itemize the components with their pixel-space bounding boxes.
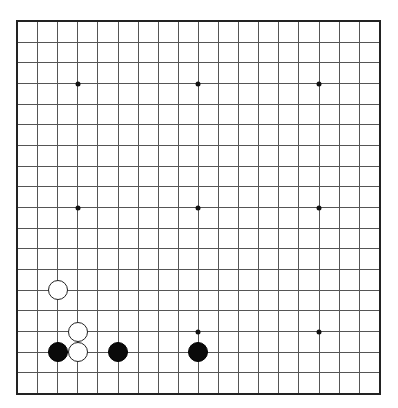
board-intersection[interactable]: [49, 199, 67, 217]
board-intersection[interactable]: [290, 364, 308, 382]
board-intersection[interactable]: [109, 157, 127, 175]
board-intersection[interactable]: [29, 33, 47, 51]
board-intersection[interactable]: [169, 13, 187, 31]
board-intersection[interactable]: [89, 95, 107, 113]
board-intersection[interactable]: [69, 116, 87, 134]
board-intersection[interactable]: [169, 137, 187, 155]
board-intersection[interactable]: [310, 261, 328, 279]
board-intersection[interactable]: [169, 54, 187, 72]
board-intersection[interactable]: [270, 116, 288, 134]
board-intersection[interactable]: [310, 219, 328, 237]
board-intersection[interactable]: [89, 240, 107, 258]
black-stone[interactable]: [108, 342, 128, 362]
board-intersection[interactable]: [129, 199, 147, 217]
board-intersection[interactable]: [169, 323, 187, 341]
board-intersection[interactable]: [189, 385, 207, 403]
board-intersection[interactable]: [290, 281, 308, 299]
board-intersection[interactable]: [69, 54, 87, 72]
board-intersection[interactable]: [250, 137, 268, 155]
board-intersection[interactable]: [330, 343, 348, 361]
board-intersection[interactable]: [290, 137, 308, 155]
board-intersection[interactable]: [290, 385, 308, 403]
board-intersection[interactable]: [370, 95, 388, 113]
board-intersection[interactable]: [370, 13, 388, 31]
board-intersection[interactable]: [29, 343, 47, 361]
board-intersection[interactable]: [49, 385, 67, 403]
board-intersection[interactable]: [330, 385, 348, 403]
board-intersection[interactable]: [350, 137, 368, 155]
board-intersection[interactable]: [49, 13, 67, 31]
board-intersection[interactable]: [250, 157, 268, 175]
board-intersection[interactable]: [370, 178, 388, 196]
board-intersection[interactable]: [109, 302, 127, 320]
board-intersection[interactable]: [350, 199, 368, 217]
board-intersection[interactable]: [310, 13, 328, 31]
board-intersection[interactable]: [189, 178, 207, 196]
board-intersection[interactable]: [210, 323, 228, 341]
board-intersection[interactable]: [149, 54, 167, 72]
board-intersection[interactable]: [250, 364, 268, 382]
board-intersection[interactable]: [230, 323, 248, 341]
board-intersection[interactable]: [330, 33, 348, 51]
board-intersection[interactable]: [9, 385, 27, 403]
board-intersection[interactable]: [149, 281, 167, 299]
board-intersection[interactable]: [29, 364, 47, 382]
board-intersection[interactable]: [230, 364, 248, 382]
board-intersection[interactable]: [89, 261, 107, 279]
board-intersection[interactable]: [250, 178, 268, 196]
board-intersection[interactable]: [69, 385, 87, 403]
board-intersection[interactable]: [210, 75, 228, 93]
board-intersection[interactable]: [129, 75, 147, 93]
board-intersection[interactable]: [69, 219, 87, 237]
board-intersection[interactable]: [189, 281, 207, 299]
board-intersection[interactable]: [270, 219, 288, 237]
board-intersection[interactable]: [89, 343, 107, 361]
board-intersection[interactable]: [310, 157, 328, 175]
board-intersection[interactable]: [290, 199, 308, 217]
board-intersection[interactable]: [370, 302, 388, 320]
board-intersection[interactable]: [9, 219, 27, 237]
board-intersection[interactable]: [149, 13, 167, 31]
board-intersection[interactable]: [230, 281, 248, 299]
board-intersection[interactable]: [69, 364, 87, 382]
board-intersection[interactable]: [129, 281, 147, 299]
board-intersection[interactable]: [270, 364, 288, 382]
board-intersection[interactable]: [350, 75, 368, 93]
black-stone[interactable]: [48, 342, 68, 362]
board-intersection[interactable]: [350, 33, 368, 51]
board-intersection[interactable]: [49, 137, 67, 155]
board-intersection[interactable]: [29, 95, 47, 113]
board-intersection[interactable]: [270, 281, 288, 299]
board-intersection[interactable]: [169, 385, 187, 403]
board-intersection[interactable]: [210, 302, 228, 320]
board-intersection[interactable]: [370, 54, 388, 72]
board-intersection[interactable]: [210, 157, 228, 175]
board-intersection[interactable]: [109, 364, 127, 382]
board-intersection[interactable]: [350, 116, 368, 134]
board-intersection[interactable]: [69, 95, 87, 113]
board-intersection[interactable]: [129, 343, 147, 361]
board-intersection[interactable]: [129, 178, 147, 196]
board-intersection[interactable]: [370, 137, 388, 155]
board-intersection[interactable]: [230, 178, 248, 196]
board-intersection[interactable]: [330, 199, 348, 217]
board-intersection[interactable]: [290, 157, 308, 175]
board-intersection[interactable]: [109, 281, 127, 299]
board-intersection[interactable]: [149, 157, 167, 175]
board-intersection[interactable]: [9, 240, 27, 258]
board-intersection[interactable]: [270, 261, 288, 279]
board-intersection[interactable]: [9, 364, 27, 382]
board-intersection[interactable]: [210, 364, 228, 382]
board-intersection[interactable]: [270, 178, 288, 196]
board-intersection[interactable]: [189, 116, 207, 134]
board-intersection[interactable]: [310, 54, 328, 72]
board-intersection[interactable]: [109, 240, 127, 258]
board-intersection[interactable]: [210, 33, 228, 51]
board-intersection[interactable]: [89, 385, 107, 403]
board-intersection[interactable]: [149, 364, 167, 382]
board-intersection[interactable]: [290, 178, 308, 196]
board-intersection[interactable]: [290, 343, 308, 361]
board-intersection[interactable]: [330, 323, 348, 341]
board-intersection[interactable]: [290, 54, 308, 72]
board-intersection[interactable]: [250, 219, 268, 237]
